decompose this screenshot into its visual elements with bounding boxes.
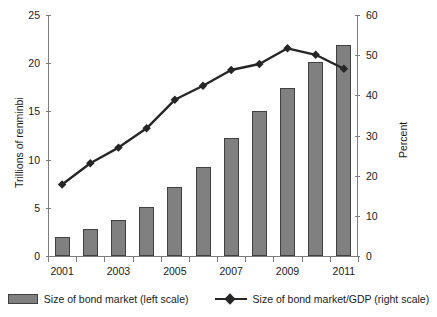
left-axis-tick-label: 5	[16, 203, 40, 214]
right-axis-tick-label: 40	[366, 90, 390, 101]
legend-label-bond-market: Size of bond market (left scale)	[44, 294, 189, 305]
bottom-axis-tick	[217, 257, 218, 262]
bottom-axis-tick-label: 2009	[268, 266, 308, 277]
line-diamond-swatch-icon	[215, 294, 247, 304]
bottom-axis-tick	[245, 257, 246, 262]
bottom-axis-tick	[189, 257, 190, 262]
left-axis-tick-label: 0	[16, 251, 40, 262]
bottom-axis-tick	[358, 257, 359, 262]
bottom-axis-tick-label: 2001	[42, 266, 82, 277]
legend-item-bond-market-gdp: Size of bond market/GDP (right scale)	[215, 294, 430, 305]
right-axis-tick-label: 20	[366, 171, 390, 182]
left-axis-tick-label: 20	[16, 58, 40, 69]
line-marker-2011	[340, 65, 348, 73]
bottom-axis-tick	[76, 257, 77, 262]
bottom-axis-tick	[133, 257, 134, 262]
right-axis-tick-label: 50	[366, 50, 390, 61]
right-axis-title: Percent	[398, 121, 409, 157]
plot-area: 0510152025 0102030405060 200120032005200…	[48, 15, 358, 256]
line-path	[62, 48, 344, 184]
bottom-axis-tick	[161, 257, 162, 262]
left-axis-tick-label: 15	[16, 106, 40, 117]
line-marker-2010	[312, 51, 320, 59]
legend-item-bond-market: Size of bond market (left scale)	[8, 294, 189, 305]
right-axis-tick-label: 0	[366, 251, 390, 262]
left-axis-tick-label: 25	[16, 10, 40, 21]
right-axis-tick-label: 10	[366, 211, 390, 222]
chart-figure: Trillions of renminbi Percent 0510152025…	[0, 0, 437, 317]
bottom-axis-tick	[330, 257, 331, 262]
bottom-axis-tick-label: 2005	[155, 266, 195, 277]
left-axis-tick-label: 10	[16, 155, 40, 166]
bottom-axis-tick-label: 2003	[98, 266, 138, 277]
line-series-layer	[48, 15, 358, 256]
right-axis-tick-label: 30	[366, 131, 390, 142]
bottom-axis-line	[48, 256, 358, 257]
bottom-axis-tick	[273, 257, 274, 262]
legend-label-bond-market-gdp: Size of bond market/GDP (right scale)	[253, 294, 430, 305]
bottom-axis-tick	[302, 257, 303, 262]
bottom-axis-tick	[48, 257, 49, 262]
chart-legend: Size of bond market (left scale) Size of…	[0, 288, 437, 310]
bottom-axis-tick-label: 2011	[324, 266, 364, 277]
right-axis-tick-label: 60	[366, 10, 390, 21]
bar-swatch-icon	[8, 294, 38, 304]
bottom-axis-tick-label: 2007	[211, 266, 251, 277]
bottom-axis-tick	[104, 257, 105, 262]
